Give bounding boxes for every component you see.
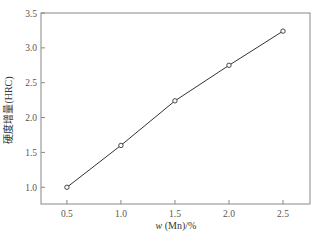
y-tick-label: 1.0: [25, 183, 37, 193]
data-point-marker: [119, 143, 123, 147]
y-tick-label: 3.5: [25, 9, 37, 19]
y-axis-label: 硬度增量(HRC): [2, 76, 15, 143]
x-tick-label: 2.5: [277, 209, 289, 219]
y-tick-label: 2.0: [25, 113, 37, 123]
plot-frame: [41, 13, 310, 204]
y-tick-label: 2.5: [25, 78, 37, 88]
x-axis-label: w (Mn)/%: [156, 220, 197, 232]
data-series: [65, 29, 285, 190]
x-tick-label: 2.0: [223, 209, 235, 219]
x-tick-label: 1.5: [169, 209, 181, 219]
data-point-marker: [227, 63, 231, 67]
x-tick-label: 0.5: [61, 209, 73, 219]
y-tick-label: 3.0: [25, 43, 37, 53]
x-axis-label-unit: (Mn)/%: [162, 220, 196, 232]
x-axis-ticks: 0.51.01.52.02.5: [61, 200, 289, 219]
series-line: [67, 31, 283, 187]
data-point-marker: [173, 99, 177, 103]
line-chart: 1.01.52.02.53.03.5 0.51.01.52.02.5 硬度增量(…: [0, 0, 319, 244]
data-point-marker: [65, 185, 69, 189]
y-axis-ticks: 1.01.52.02.53.03.5: [25, 9, 45, 193]
x-tick-label: 1.0: [115, 209, 127, 219]
data-point-marker: [281, 29, 285, 33]
y-tick-label: 1.5: [25, 148, 37, 158]
